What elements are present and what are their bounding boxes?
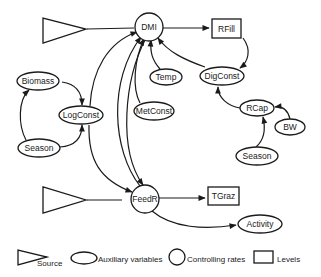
edge-rfill-digconst (240, 38, 248, 68)
edge-biomass-logconst (62, 82, 82, 105)
edge-logconst-dmi (90, 32, 137, 106)
edge-temp-dmi (151, 40, 160, 69)
node-season-right-label: Season (243, 151, 272, 161)
edge-season-rcap (256, 117, 264, 147)
legend-controlling-label: Controlling rates (187, 255, 245, 264)
node-rfill[interactable]: RFill (212, 19, 241, 38)
node-tgraz-label: TGraz (212, 191, 236, 201)
legend-source-label: Source (37, 259, 63, 268)
edge-metconst-dmi (135, 39, 144, 103)
edge-season-logconst (60, 125, 82, 147)
node-temp[interactable]: Temp (150, 69, 182, 85)
node-activity-label: Activity (247, 219, 275, 229)
legend-auxiliary-icon (71, 252, 97, 264)
node-season-right[interactable]: Season (236, 147, 278, 165)
node-bw-label: BW (283, 122, 297, 132)
edge-feedr-activity (152, 211, 236, 227)
node-metconst-label: MetConst (136, 106, 173, 116)
node-activity[interactable]: Activity (238, 215, 282, 233)
node-dmi[interactable]: DMI (135, 13, 163, 41)
edge-digconst-dmi (158, 38, 205, 67)
node-biomass[interactable]: Biomass (17, 72, 59, 90)
node-rfill-label: RFill (218, 24, 235, 34)
node-temp-label: Temp (156, 72, 177, 82)
node-tgraz[interactable]: TGraz (208, 187, 239, 205)
legend-levels-label: Levels (277, 255, 300, 264)
node-season-left[interactable]: Season (18, 139, 60, 157)
diagram-canvas: DMI RFill Temp DigConst MetConst Biomass… (0, 0, 321, 277)
edge-bw-rcap (275, 107, 290, 119)
legend-controlling-icon (169, 249, 185, 265)
node-metconst[interactable]: MetConst (134, 102, 174, 120)
legend: Source Auxiliary variables Controlling r… (18, 249, 300, 268)
node-logconst-label: LogConst (63, 110, 100, 120)
node-digconst-label: DigConst (205, 71, 241, 81)
node-biomass-label: Biomass (22, 76, 55, 86)
edge-source-dmi (87, 28, 134, 29)
node-logconst[interactable]: LogConst (59, 106, 103, 124)
node-dmi-label: DMI (141, 22, 157, 32)
node-bw[interactable]: BW (275, 119, 305, 135)
node-season-left-label: Season (25, 143, 54, 153)
source-top-triangle (43, 18, 86, 43)
edge-rcap-digconst (218, 87, 240, 108)
node-rcap[interactable]: RCap (240, 100, 274, 116)
legend-levels-icon (254, 251, 273, 263)
edge-season-biomass (20, 90, 29, 140)
node-feedr[interactable]: FeedR (131, 185, 159, 213)
legend-auxiliary-label: Auxiliary variables (98, 255, 162, 264)
node-feedr-label: FeedR (132, 194, 158, 204)
source-bottom-triangle (43, 187, 86, 213)
node-digconst[interactable]: DigConst (200, 67, 244, 85)
node-rcap-label: RCap (246, 103, 268, 113)
